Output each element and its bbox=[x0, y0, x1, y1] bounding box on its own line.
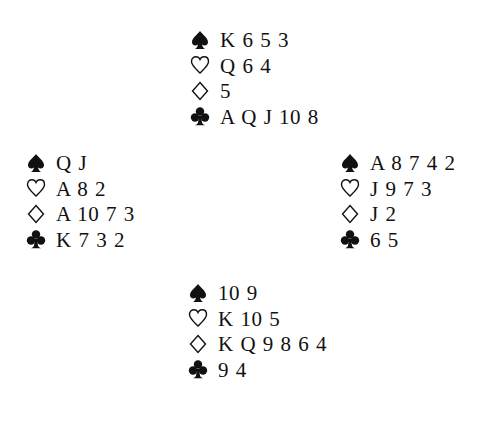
spade-icon bbox=[186, 282, 210, 304]
west-spades-cards: Q J bbox=[56, 153, 87, 174]
west-spades-row: Q J bbox=[24, 150, 135, 176]
club-icon bbox=[24, 228, 48, 250]
east-hearts-row: J 9 7 3 bbox=[338, 176, 456, 202]
west-diamonds-row: A 10 7 3 bbox=[24, 201, 135, 227]
east-hearts-cards: J 9 7 3 bbox=[370, 179, 432, 200]
north-spades-row: K 6 5 3 bbox=[188, 27, 319, 53]
west-clubs-cards: K 7 3 2 bbox=[56, 230, 125, 251]
south-diamonds-row: K Q 9 8 6 4 bbox=[186, 331, 327, 357]
club-icon bbox=[338, 228, 362, 250]
south-spades-cards: 10 9 bbox=[218, 283, 258, 304]
heart-icon bbox=[338, 177, 362, 199]
north-hearts-cards: Q 6 4 bbox=[220, 56, 271, 77]
north-spades-cards: K 6 5 3 bbox=[220, 30, 289, 51]
east-clubs-row: 6 5 bbox=[338, 227, 456, 253]
spade-icon bbox=[188, 29, 212, 51]
west-diamonds-cards: A 10 7 3 bbox=[56, 204, 135, 225]
west-hearts-row: A 8 2 bbox=[24, 176, 135, 202]
west-clubs-row: K 7 3 2 bbox=[24, 227, 135, 253]
diamond-icon bbox=[24, 203, 48, 225]
north-diamonds-row: 5 bbox=[188, 78, 319, 104]
south-spades-row: 10 9 bbox=[186, 280, 327, 306]
diamond-icon bbox=[188, 80, 212, 102]
south-hearts-cards: K 10 5 bbox=[218, 309, 280, 330]
hand-south: 10 9 K 10 5 K Q 9 8 6 4 9 4 bbox=[186, 280, 327, 382]
north-clubs-cards: A Q J 10 8 bbox=[220, 107, 319, 128]
east-spades-cards: A 8 7 4 2 bbox=[370, 153, 456, 174]
hand-north: K 6 5 3 Q 6 4 5 A Q J 10 8 bbox=[188, 27, 319, 129]
east-diamonds-row: J 2 bbox=[338, 201, 456, 227]
north-clubs-row: A Q J 10 8 bbox=[188, 104, 319, 130]
club-icon bbox=[188, 105, 212, 127]
hand-east: A 8 7 4 2 J 9 7 3 J 2 6 5 bbox=[338, 150, 456, 252]
spade-icon bbox=[24, 152, 48, 174]
west-hearts-cards: A 8 2 bbox=[56, 179, 106, 200]
east-clubs-cards: 6 5 bbox=[370, 230, 399, 251]
north-diamonds-cards: 5 bbox=[220, 81, 231, 102]
south-hearts-row: K 10 5 bbox=[186, 306, 327, 332]
diamond-icon bbox=[338, 203, 362, 225]
south-clubs-cards: 9 4 bbox=[218, 360, 247, 381]
heart-icon bbox=[24, 177, 48, 199]
east-diamonds-cards: J 2 bbox=[370, 204, 396, 225]
east-spades-row: A 8 7 4 2 bbox=[338, 150, 456, 176]
diamond-icon bbox=[186, 333, 210, 355]
hand-west: Q J A 8 2 A 10 7 3 K 7 3 2 bbox=[24, 150, 135, 252]
spade-icon bbox=[338, 152, 362, 174]
heart-icon bbox=[186, 307, 210, 329]
south-diamonds-cards: K Q 9 8 6 4 bbox=[218, 334, 327, 355]
club-icon bbox=[186, 358, 210, 380]
north-hearts-row: Q 6 4 bbox=[188, 53, 319, 79]
south-clubs-row: 9 4 bbox=[186, 357, 327, 383]
heart-icon bbox=[188, 54, 212, 76]
